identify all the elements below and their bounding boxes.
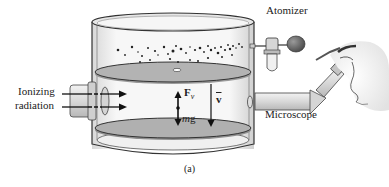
label-radiation: radiation	[15, 98, 54, 112]
oil-drop	[176, 106, 180, 110]
label-microscope: Microscope	[265, 108, 317, 120]
figure-caption: (a)	[184, 163, 195, 174]
force-subscript: v	[191, 92, 195, 101]
label-viscous-force: Fv	[184, 86, 194, 101]
apparatus-drawing	[0, 0, 389, 187]
observer-face	[316, 41, 389, 111]
atomizer	[250, 36, 305, 71]
label-atomizer: Atomizer	[266, 4, 308, 16]
plate-hole	[173, 68, 181, 71]
microscope	[248, 58, 348, 114]
lower-plate	[95, 118, 251, 140]
window-left	[101, 87, 109, 115]
label-weight: mg	[182, 112, 195, 124]
force-symbol: F	[184, 86, 191, 98]
weight-mass: m	[182, 112, 190, 124]
weight-gravity: g	[190, 112, 196, 124]
upper-plate	[95, 62, 251, 84]
millikan-diagram: Ionizing radiation Atomizer Microscope F…	[0, 0, 389, 187]
label-ionizing: Ionizing	[18, 84, 55, 98]
label-velocity: v	[216, 93, 222, 105]
